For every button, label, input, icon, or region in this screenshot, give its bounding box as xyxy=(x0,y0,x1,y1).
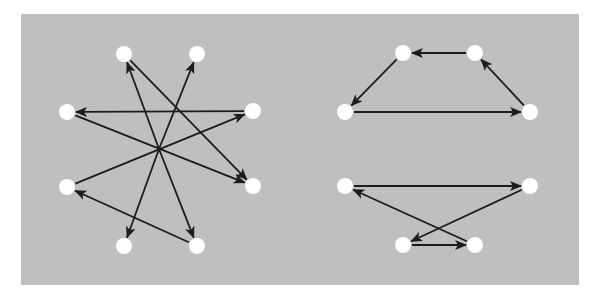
directed-edge xyxy=(159,62,194,149)
cycle-graph-bottom-edges xyxy=(353,186,522,245)
graph-node xyxy=(522,104,538,120)
edges-layer xyxy=(75,53,524,245)
directed-edge xyxy=(127,149,159,238)
graph-diagram xyxy=(0,0,598,298)
directed-edge xyxy=(481,60,524,106)
graph-node xyxy=(522,178,538,194)
graph-node xyxy=(245,103,261,119)
directed-edge xyxy=(127,62,159,149)
graph-node xyxy=(189,238,205,254)
graph-node xyxy=(59,104,75,120)
directed-edge xyxy=(75,191,189,243)
graph-node xyxy=(337,104,353,120)
graph-node xyxy=(395,237,411,253)
directed-edge xyxy=(76,111,244,112)
graph-node xyxy=(337,178,353,194)
graph-node xyxy=(116,238,132,254)
cycle-graph-bottom-nodes xyxy=(337,178,538,253)
graph-node xyxy=(59,179,75,195)
directed-edge xyxy=(351,59,396,105)
graph-node xyxy=(467,237,483,253)
graph-node xyxy=(395,45,411,61)
directed-edge xyxy=(159,149,194,238)
graph-node xyxy=(116,46,132,62)
nodes-layer xyxy=(59,45,538,254)
graph-node xyxy=(189,46,205,62)
cycle-graph-top-edges xyxy=(351,53,524,112)
graph-node xyxy=(467,45,483,61)
directed-edge xyxy=(353,190,467,242)
directed-edge xyxy=(411,190,522,241)
cycle-graph-top-nodes xyxy=(337,45,538,120)
star-graph-edges xyxy=(75,60,247,242)
graph-node xyxy=(245,178,261,194)
